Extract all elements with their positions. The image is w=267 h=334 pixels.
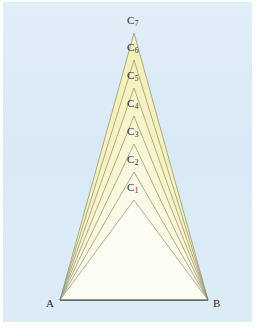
- apex-label-c1: C1: [127, 181, 138, 193]
- apex-label-letter: C: [127, 41, 134, 53]
- apex-label-c4: C4: [127, 97, 138, 109]
- apex-label-letter: C: [127, 125, 134, 137]
- apex-label-c3: C3: [127, 125, 138, 137]
- apex-label-subscript: 3: [135, 130, 139, 139]
- apex-label-letter: C: [127, 153, 134, 165]
- apex-label-subscript: 1: [135, 186, 139, 195]
- base-vertex-label-a: A: [46, 297, 54, 309]
- apex-label-c6: C6: [127, 41, 138, 53]
- apex-label-subscript: 4: [135, 102, 139, 111]
- figure-page: C1C2C3C4C5C6C7 AB: [0, 0, 267, 334]
- apex-label-subscript: 2: [135, 158, 139, 167]
- apex-label-letter: C: [127, 181, 134, 193]
- apex-label-letter: C: [127, 14, 134, 26]
- apex-label-subscript: 6: [135, 46, 139, 55]
- apex-label-subscript: 5: [135, 74, 139, 83]
- apex-label-c5: C5: [127, 69, 138, 81]
- apex-label-c7: C7: [127, 14, 138, 26]
- apex-label-letter: C: [127, 69, 134, 81]
- apex-label-subscript: 7: [135, 19, 139, 28]
- apex-label-letter: C: [127, 97, 134, 109]
- apex-label-c2: C2: [127, 153, 138, 165]
- base-vertex-label-b: B: [213, 297, 220, 309]
